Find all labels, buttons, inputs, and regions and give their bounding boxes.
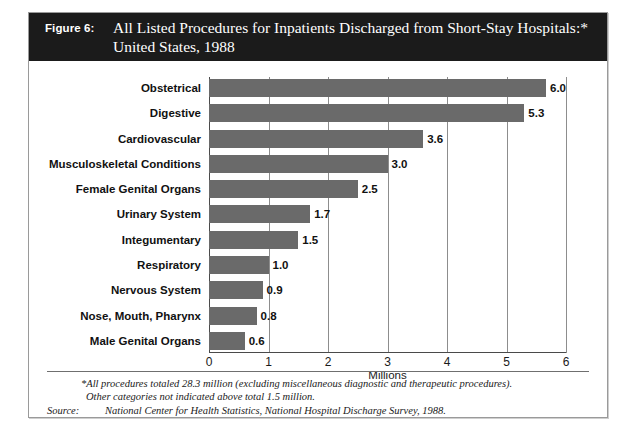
gridline — [566, 77, 567, 353]
bar-category-label: Female Genital Organs — [76, 183, 201, 195]
bar-row: Musculoskeletal Conditions3.0 — [209, 155, 566, 173]
bar-row: Nervous System0.9 — [209, 281, 566, 299]
bar-row: Female Genital Organs2.5 — [209, 180, 566, 198]
bar-category-label: Urinary System — [117, 208, 201, 220]
bar — [209, 104, 524, 122]
bar-category-label: Musculoskeletal Conditions — [49, 158, 201, 170]
bar-category-label: Integumentary — [122, 234, 201, 246]
footnote-line-1: *All procedures totaled 28.3 million (ex… — [81, 377, 591, 390]
figure-title-line-2: United States, 1988 — [113, 37, 599, 56]
bar — [209, 79, 546, 97]
x-axis-line — [209, 352, 566, 353]
x-axis-tick-label: 1 — [265, 355, 272, 369]
bar-value-label: 6.0 — [550, 82, 566, 94]
bar-row: Cardiovascular3.6 — [209, 130, 566, 148]
bar-category-label: Nose, Mouth, Pharynx — [80, 310, 201, 322]
bar-row: Respiratory1.0 — [209, 256, 566, 274]
page-title: All Listed Procedures for Inpatients Dis… — [113, 18, 599, 56]
bar-value-label: 1.0 — [273, 259, 289, 271]
x-axis-tick-label: 0 — [206, 355, 213, 369]
bar — [209, 130, 423, 148]
x-axis-tick-label: 6 — [563, 355, 570, 369]
source-label: Source: — [47, 405, 79, 416]
bar-chart: Obstetrical6.0Digestive5.3Cardiovascular… — [29, 61, 607, 369]
bar — [209, 281, 263, 299]
figure-number-label: Figure 6: — [45, 22, 94, 34]
bar-row: Digestive5.3 — [209, 104, 566, 122]
bars-container: Obstetrical6.0Digestive5.3Cardiovascular… — [209, 77, 566, 352]
x-axis-tick-label: 2 — [325, 355, 332, 369]
bar — [209, 307, 257, 325]
bar-category-label: Obstetrical — [141, 82, 201, 94]
bar-row: Integumentary1.5 — [209, 231, 566, 249]
bar-category-label: Respiratory — [137, 259, 201, 271]
bar-value-label: 5.3 — [528, 107, 544, 119]
bar — [209, 332, 245, 350]
bar-value-label: 0.8 — [261, 310, 277, 322]
bar-row: Urinary System1.7 — [209, 205, 566, 223]
x-axis-tick-label: 3 — [384, 355, 391, 369]
footnote-line-2: Other categories not indicated above tot… — [81, 390, 591, 403]
bar-value-label: 1.5 — [302, 234, 318, 246]
figure-frame: Figure 6: All Listed Procedures for Inpa… — [28, 12, 608, 418]
footnote-divider — [47, 371, 589, 372]
bar-category-label: Digestive — [150, 107, 201, 119]
bar — [209, 231, 298, 249]
bar — [209, 155, 388, 173]
bar — [209, 205, 310, 223]
bar-value-label: 2.5 — [362, 183, 378, 195]
bar-row: Male Genital Organs0.6 — [209, 332, 566, 350]
bar-row: Obstetrical6.0 — [209, 79, 566, 97]
bar-value-label: 0.6 — [249, 335, 265, 347]
figure-title-banner: Figure 6: All Listed Procedures for Inpa… — [29, 13, 607, 61]
bar — [209, 180, 358, 198]
bar-value-label: 1.7 — [314, 208, 330, 220]
bar-category-label: Male Genital Organs — [90, 335, 201, 347]
bar — [209, 256, 269, 274]
figure-title-line-1: All Listed Procedures for Inpatients Dis… — [113, 18, 599, 37]
bar-category-label: Nervous System — [111, 284, 201, 296]
bar-row: Nose, Mouth, Pharynx0.8 — [209, 307, 566, 325]
source-text: National Center for Health Statistics, N… — [105, 405, 446, 416]
bar-value-label: 3.0 — [392, 158, 408, 170]
bar-category-label: Cardiovascular — [118, 133, 201, 145]
x-axis-tick-label: 4 — [444, 355, 451, 369]
x-axis-tick-label: 5 — [503, 355, 510, 369]
footnote: *All procedures totaled 28.3 million (ex… — [81, 377, 591, 403]
x-axis-tick-labels: 0123456 — [209, 355, 566, 371]
bar-value-label: 3.6 — [427, 133, 443, 145]
bar-value-label: 0.9 — [267, 284, 283, 296]
plot-area: Obstetrical6.0Digestive5.3Cardiovascular… — [209, 77, 566, 353]
